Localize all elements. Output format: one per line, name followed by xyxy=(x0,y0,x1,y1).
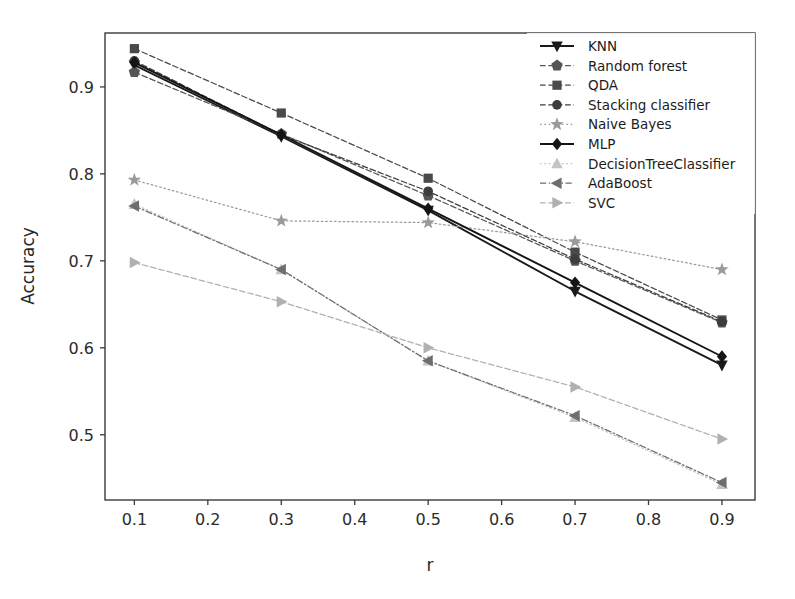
marker-circle xyxy=(423,186,433,196)
legend-entry-label: KNN xyxy=(588,38,617,54)
chart-legend: KNNRandom forestQDAStacking classifierNa… xyxy=(527,33,755,214)
legend-entry-label: AdaBoost xyxy=(588,175,652,191)
x-tick-label: 0.7 xyxy=(562,510,587,529)
marker-square xyxy=(130,44,139,53)
marker-circle xyxy=(552,100,562,110)
y-tick-label: 0.8 xyxy=(69,165,94,184)
legend-entry-label: Stacking classifier xyxy=(588,97,711,113)
marker-circle xyxy=(570,254,580,264)
legend-entry-label: QDA xyxy=(588,77,619,93)
marker-circle xyxy=(717,317,727,327)
legend-entry-label: SVC xyxy=(588,195,615,211)
y-tick-label: 0.5 xyxy=(69,426,94,445)
chart-figure: 0.10.20.30.40.50.60.70.80.9 0.50.60.70.8… xyxy=(0,0,795,599)
x-tick-label: 0.6 xyxy=(489,510,514,529)
marker-square xyxy=(552,81,561,90)
marker-square xyxy=(277,108,286,117)
legend-entry-label: MLP xyxy=(588,136,615,152)
y-axis-label: Accuracy xyxy=(18,227,38,305)
x-tick-label: 0.4 xyxy=(342,510,367,529)
x-tick-label: 0.9 xyxy=(709,510,734,529)
legend-entry-label: Random forest xyxy=(588,58,687,74)
y-tick-label: 0.6 xyxy=(69,339,94,358)
accuracy-vs-r-line-chart: 0.10.20.30.40.50.60.70.80.9 0.50.60.70.8… xyxy=(0,0,795,599)
y-tick-label: 0.7 xyxy=(69,252,94,271)
x-tick-label: 0.2 xyxy=(195,510,220,529)
x-tick-label: 0.1 xyxy=(122,510,147,529)
marker-square xyxy=(424,174,433,183)
x-tick-label: 0.3 xyxy=(269,510,294,529)
x-axis-label: r xyxy=(427,555,434,575)
legend-entry-label: Naive Bayes xyxy=(588,116,672,132)
legend-entry-label: DecisionTreeClassifier xyxy=(588,156,736,172)
x-tick-label: 0.8 xyxy=(636,510,661,529)
y-tick-label: 0.9 xyxy=(69,78,94,97)
x-tick-label: 0.5 xyxy=(415,510,440,529)
